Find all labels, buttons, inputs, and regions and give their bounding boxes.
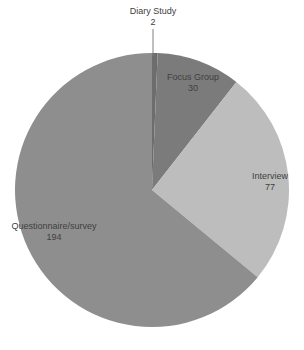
label-questionnaire-survey: Questionnaire/survey 194 xyxy=(11,221,96,243)
label-questionnaire-survey-name: Questionnaire/survey xyxy=(11,221,96,232)
label-interview: Interview 77 xyxy=(252,171,288,193)
label-interview-value: 77 xyxy=(252,182,288,193)
label-interview-name: Interview xyxy=(252,171,288,182)
label-questionnaire-survey-value: 194 xyxy=(11,232,96,243)
label-focus-group-name: Focus Group xyxy=(167,72,219,83)
label-focus-group: Focus Group 30 xyxy=(167,72,219,94)
label-focus-group-value: 30 xyxy=(167,83,219,94)
pie-chart: Diary Study 2 Focus Group 30 Interview 7… xyxy=(0,0,304,350)
label-diary-study-name: Diary Study xyxy=(130,6,177,17)
label-diary-study-value: 2 xyxy=(130,17,177,28)
label-diary-study: Diary Study 2 xyxy=(130,6,177,28)
